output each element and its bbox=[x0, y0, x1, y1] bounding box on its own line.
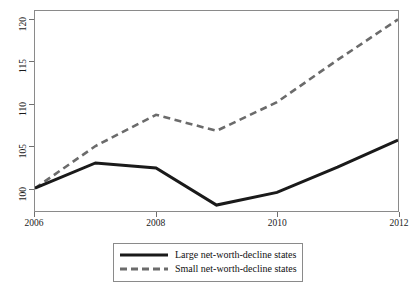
x-tick-label: 2012 bbox=[390, 218, 409, 229]
x-tick-mark bbox=[399, 212, 400, 217]
x-tick-label: 2006 bbox=[25, 218, 44, 229]
legend-label-large: Large net-worth-decline states bbox=[175, 249, 296, 261]
legend-item-small: Small net-worth-decline states bbox=[120, 262, 296, 276]
y-tick-label: 100 bbox=[18, 187, 28, 201]
plot-area bbox=[34, 10, 399, 212]
dashed-line-swatch bbox=[120, 264, 168, 274]
y-tick-mark bbox=[29, 19, 34, 20]
y-tick-label: 110 bbox=[18, 102, 28, 116]
series-canvas bbox=[35, 11, 398, 211]
y-axis: 100105110115120 bbox=[0, 0, 34, 291]
y-tick-label: 115 bbox=[18, 59, 28, 73]
y-tick-mark bbox=[29, 146, 34, 147]
y-tick-mark bbox=[29, 189, 34, 190]
legend-label-small: Small net-worth-decline states bbox=[175, 263, 297, 275]
x-axis: 2006200820102012 bbox=[0, 212, 414, 238]
y-tick-label: 120 bbox=[18, 16, 28, 30]
x-tick-mark bbox=[156, 212, 157, 217]
x-tick-mark bbox=[277, 212, 278, 217]
y-tick-mark bbox=[29, 104, 34, 105]
legend-item-large: Large net-worth-decline states bbox=[120, 248, 296, 262]
x-tick-mark bbox=[34, 212, 35, 217]
y-tick-mark bbox=[29, 61, 34, 62]
series-line-large-net-worth-decline-states bbox=[35, 140, 398, 205]
solid-line-swatch bbox=[120, 250, 168, 260]
x-tick-label: 2010 bbox=[268, 218, 287, 229]
x-tick-label: 2008 bbox=[146, 218, 165, 229]
chart-legend: Large net-worth-decline states Small net… bbox=[113, 243, 303, 282]
line-chart-figure: 100105110115120 2006200820102012 Large n… bbox=[0, 0, 414, 291]
y-tick-label: 105 bbox=[18, 144, 28, 158]
